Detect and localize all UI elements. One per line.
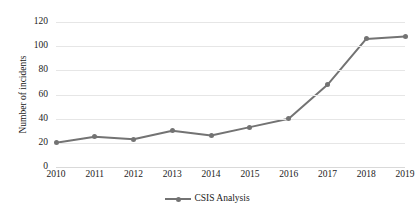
- line-chart-figure: Number of incidents 020406080100120 2010…: [0, 0, 415, 216]
- line-marker-icon: [165, 198, 191, 200]
- y-tick-label: 100: [34, 41, 48, 51]
- y-tick-label: 120: [34, 17, 48, 27]
- x-axis-tick-labels: 2010201120122013201420152016201720182019: [56, 170, 405, 184]
- gridline-y-20: [56, 143, 405, 144]
- data-point-marker: [209, 133, 214, 138]
- legend-item-label: CSIS Analysis: [194, 194, 249, 204]
- gridline-y-120: [56, 22, 405, 23]
- gridline-y-0: [56, 167, 405, 168]
- y-tick-label: 20: [39, 138, 49, 148]
- gridline-y-100: [56, 46, 405, 47]
- x-tick-label: 2012: [124, 170, 143, 180]
- x-tick-label: 2019: [396, 170, 415, 180]
- data-point-marker: [131, 137, 136, 142]
- x-tick-label: 2018: [357, 170, 376, 180]
- data-point-marker: [54, 140, 59, 145]
- gridline-y-40: [56, 119, 405, 120]
- y-tick-label: 60: [39, 90, 49, 100]
- plot-area: [56, 22, 405, 167]
- y-tick-label: 40: [39, 114, 49, 124]
- x-tick-label: 2014: [202, 170, 221, 180]
- x-tick-label: 2013: [163, 170, 182, 180]
- x-tick-label: 2015: [240, 170, 259, 180]
- gridline-y-80: [56, 70, 405, 71]
- x-tick-label: 2017: [318, 170, 337, 180]
- chart-legend: CSIS Analysis: [0, 190, 415, 208]
- y-tick-label: 80: [39, 66, 49, 76]
- x-tick-label: 2010: [47, 170, 66, 180]
- x-tick-label: 2011: [85, 170, 104, 180]
- x-tick-label: 2016: [279, 170, 298, 180]
- y-axis-tick-labels: 020406080100120: [0, 22, 52, 167]
- gridline-y-60: [56, 95, 405, 96]
- data-point-marker: [403, 34, 408, 39]
